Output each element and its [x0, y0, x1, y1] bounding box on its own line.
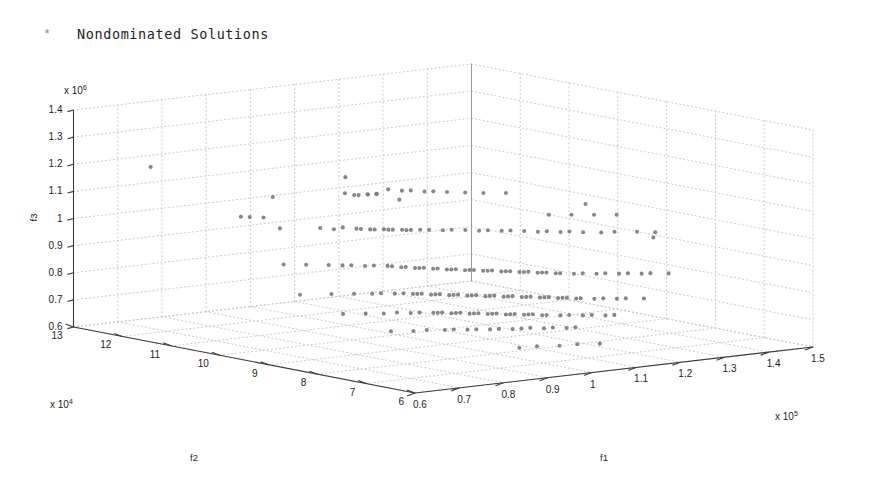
- data-point: [386, 264, 390, 268]
- data-point: [386, 187, 390, 191]
- y-axis-multiplier: x 104: [50, 398, 73, 410]
- data-point: [554, 271, 558, 275]
- grid-line-wall-right: [472, 118, 814, 184]
- data-point: [567, 229, 571, 233]
- data-point: [536, 230, 540, 234]
- data-point: [544, 270, 548, 274]
- data-point: [411, 292, 415, 296]
- data-point: [651, 235, 655, 239]
- data-point: [363, 264, 367, 268]
- grid-line-wall-right: [472, 145, 814, 211]
- data-point: [278, 226, 282, 230]
- grid-line-wall-right: [472, 91, 814, 157]
- data-point: [626, 271, 630, 275]
- x-axis-title: f1: [600, 452, 608, 463]
- data-point: [488, 327, 492, 331]
- grid-line-wall-left: [74, 145, 472, 191]
- data-point: [615, 297, 619, 301]
- data-point: [583, 202, 587, 206]
- z-axis-tick: [68, 164, 74, 166]
- data-point: [526, 270, 530, 274]
- data-point: [592, 213, 596, 217]
- data-point: [458, 311, 462, 315]
- data-point: [404, 265, 408, 269]
- data-point: [318, 226, 322, 230]
- z-axis-multiplier: x 106: [64, 84, 87, 96]
- data-point: [511, 327, 515, 331]
- data-point: [465, 328, 469, 332]
- data-point: [617, 272, 621, 276]
- data-point: [624, 296, 628, 300]
- y-axis-tick: [66, 324, 74, 327]
- z-axis-tick-label: 0.7: [49, 294, 63, 305]
- data-point: [581, 230, 585, 234]
- data-point: [440, 311, 444, 315]
- y-axis-tick-label: 13: [51, 330, 62, 341]
- data-point: [504, 191, 508, 195]
- data-point: [481, 191, 485, 195]
- data-point: [556, 296, 560, 300]
- data-point: [569, 213, 573, 217]
- x-axis-tick-label: 1.1: [634, 373, 648, 384]
- data-point: [520, 295, 524, 299]
- data-point: [590, 313, 594, 317]
- data-point: [567, 313, 571, 317]
- data-point: [667, 271, 671, 275]
- y-axis-tick-label: 9: [252, 368, 258, 379]
- z-axis-tick-label: 0.8: [49, 267, 63, 278]
- data-point: [443, 328, 447, 332]
- data-point: [497, 327, 501, 331]
- data-point: [431, 267, 435, 271]
- data-point: [592, 297, 596, 301]
- grid-line-wall-left: [74, 91, 472, 137]
- x-axis-multiplier: x 105: [775, 410, 798, 422]
- data-point: [431, 189, 435, 193]
- data-point: [517, 346, 521, 350]
- data-point: [395, 311, 399, 315]
- data-point: [349, 263, 353, 267]
- data-point: [474, 293, 478, 297]
- data-point: [510, 294, 514, 298]
- data-point: [352, 292, 356, 296]
- grid-line-floor: [118, 322, 460, 388]
- data-point: [447, 293, 451, 297]
- x-axis-tick-label: 0.7: [457, 394, 471, 405]
- data-point: [382, 312, 386, 316]
- z-axis-tick: [68, 110, 74, 112]
- data-point: [579, 296, 583, 300]
- grid-line-wall-right: [472, 64, 814, 130]
- data-point: [271, 195, 275, 199]
- data-point: [393, 292, 397, 296]
- data-point: [450, 228, 454, 232]
- data-point: [476, 311, 480, 315]
- data-point: [603, 313, 607, 317]
- data-point: [359, 227, 363, 231]
- data-point: [452, 293, 456, 297]
- data-point: [397, 198, 401, 202]
- data-point: [400, 189, 404, 193]
- data-point: [420, 292, 424, 296]
- data-point: [282, 262, 286, 266]
- data-point: [648, 271, 652, 275]
- data-point: [542, 326, 546, 330]
- z-axis-tick: [68, 273, 74, 275]
- data-point: [598, 342, 602, 346]
- z-axis-tick: [68, 191, 74, 193]
- data-point: [329, 292, 333, 296]
- data-point: [389, 329, 393, 333]
- data-point: [343, 175, 347, 179]
- data-point: [513, 312, 517, 316]
- data-point: [581, 271, 585, 275]
- x-axis-tick-label: 1.3: [723, 363, 737, 374]
- data-point: [400, 228, 404, 232]
- x-axis-tick-label: 0.8: [501, 389, 515, 400]
- grid-line-floor: [427, 286, 769, 352]
- data-point: [522, 229, 526, 233]
- data-point: [594, 272, 598, 276]
- data-point: [486, 312, 490, 316]
- data-point: [545, 229, 549, 233]
- grid-line-wall-left: [74, 64, 472, 110]
- grid-line-wall-left: [74, 227, 472, 273]
- data-point: [531, 312, 535, 316]
- x-axis-line: [415, 347, 813, 393]
